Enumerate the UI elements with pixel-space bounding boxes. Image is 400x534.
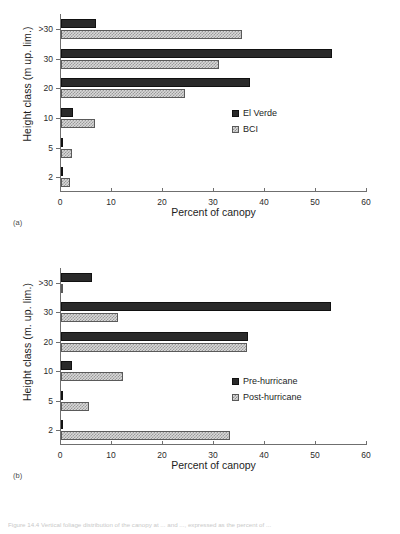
legend-label: El Verde (243, 108, 277, 118)
legend-item: Post-hurricane (232, 392, 302, 402)
y-tick (56, 312, 60, 313)
bar-pre-hurricane-2 (61, 420, 63, 429)
y-tick (56, 148, 60, 149)
legend-item: BCI (232, 124, 277, 134)
x-tick (60, 188, 61, 192)
plot-area-b: 0102030405060>3030201052 (60, 268, 367, 445)
x-tick (264, 188, 265, 192)
legend-swatch-icon (232, 378, 239, 385)
x-tick (213, 441, 214, 445)
y-tick-label: 10 (13, 113, 53, 123)
x-axis-title-a: Percent of canopy (60, 206, 367, 218)
y-tick (56, 283, 60, 284)
x-tick (162, 441, 163, 445)
panel-tag-a: (a) (13, 218, 22, 227)
bar-el-verde-2 (61, 167, 63, 176)
bar-bci-gt30 (61, 30, 242, 39)
legend-item: El Verde (232, 108, 277, 118)
bar-pre-hurricane-10 (61, 361, 72, 370)
legend-b: Pre-hurricanePost-hurricane (232, 376, 302, 408)
y-tick-label: 30 (13, 54, 53, 64)
y-tick-label: 20 (13, 83, 53, 93)
y-tick (56, 430, 60, 431)
legend-label: BCI (243, 124, 258, 134)
y-axis-line-a (60, 14, 61, 192)
bar-post-hurricane-2 (61, 431, 230, 440)
y-tick (56, 29, 60, 30)
x-axis-title-b: Percent of canopy (60, 459, 367, 471)
panel-tag-b: (b) (13, 471, 22, 480)
x-tick (213, 188, 214, 192)
figure-panel-a: Height class (m up. lim.) 0102030405060>… (0, 0, 400, 258)
bar-el-verde-5 (61, 138, 63, 147)
legend-swatch-icon (232, 394, 239, 401)
y-tick-label: 2 (13, 172, 53, 182)
bar-post-hurricane-10 (61, 372, 123, 381)
y-tick (56, 371, 60, 372)
legend-item: Pre-hurricane (232, 376, 302, 386)
x-tick (366, 441, 367, 445)
y-tick (56, 401, 60, 402)
bar-el-verde-gt30 (61, 19, 96, 28)
bar-bci-10 (61, 119, 95, 128)
x-tick (315, 188, 316, 192)
bar-post-hurricane-20 (61, 343, 247, 352)
x-tick (60, 441, 61, 445)
bar-bci-20 (61, 89, 185, 98)
bar-post-hurricane-30 (61, 313, 118, 322)
bar-el-verde-20 (61, 78, 250, 87)
bar-pre-hurricane-gt30 (61, 273, 92, 282)
legend-swatch-icon (232, 110, 239, 117)
y-tick (56, 177, 60, 178)
y-axis-line-b (60, 268, 61, 445)
legend-label: Pre-hurricane (243, 376, 298, 386)
y-tick (56, 88, 60, 89)
y-tick-label: 2 (13, 425, 53, 435)
legend-a: El VerdeBCI (232, 108, 277, 140)
figure-caption: Figure 14.4 Vertical foliage distributio… (8, 521, 398, 530)
bar-pre-hurricane-5 (61, 391, 63, 400)
y-tick (56, 118, 60, 119)
y-tick-label: 20 (13, 337, 53, 347)
x-tick (111, 188, 112, 192)
x-tick (111, 441, 112, 445)
x-tick (162, 188, 163, 192)
bar-post-hurricane-5 (61, 402, 89, 411)
bar-bci-30 (61, 60, 219, 69)
legend-label: Post-hurricane (243, 392, 302, 402)
bar-bci-2 (61, 178, 70, 187)
y-tick-label: 10 (13, 366, 53, 376)
bar-pre-hurricane-30 (61, 302, 331, 311)
y-tick (56, 59, 60, 60)
y-tick-label: 5 (13, 143, 53, 153)
bar-pre-hurricane-20 (61, 332, 248, 341)
figure-panel-b: Height class (m. up. lim.) 0102030405060… (0, 258, 400, 513)
y-tick-label: 5 (13, 396, 53, 406)
y-tick-label: 30 (13, 307, 53, 317)
bar-el-verde-30 (61, 49, 332, 58)
y-tick-label: >30 (13, 278, 53, 288)
bar-post-hurricane-gt30 (61, 284, 63, 293)
x-tick (264, 441, 265, 445)
x-tick (366, 188, 367, 192)
x-tick (315, 441, 316, 445)
legend-swatch-icon (232, 126, 239, 133)
bar-el-verde-10 (61, 108, 73, 117)
y-tick (56, 342, 60, 343)
plot-area-a: 0102030405060>3030201052 (60, 14, 367, 192)
y-tick-label: >30 (13, 24, 53, 34)
bar-bci-5 (61, 149, 72, 158)
